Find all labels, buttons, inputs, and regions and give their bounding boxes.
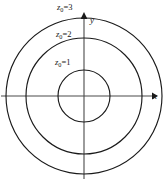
curve-label-z3: z0=3 (57, 3, 72, 12)
curve-label-z3-subscript: 0 (60, 6, 63, 13)
curve-label-z3-value: 3 (68, 2, 72, 12)
curve-label-z1-subscript: 0 (58, 61, 61, 68)
x-axis-label: x (153, 92, 157, 101)
curve-label-z2-subscript: 0 (59, 33, 62, 40)
curve-label-z1-value: 1 (66, 57, 70, 67)
concentric-circles-diagram (0, 0, 165, 180)
curve-label-z2-value: 2 (67, 29, 71, 39)
curve-label-z1: z0=1 (55, 58, 70, 67)
figure-container: z0=3 z0=2 z0=1 y x (0, 0, 165, 180)
curve-label-z2: z0=2 (56, 30, 71, 39)
y-axis-label: y (90, 16, 94, 25)
